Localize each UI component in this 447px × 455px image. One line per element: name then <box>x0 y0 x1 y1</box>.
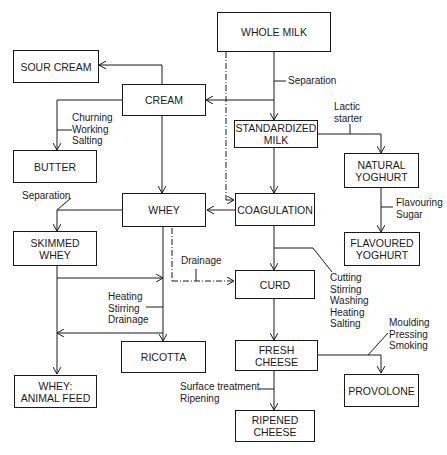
node-ricotta: RICOTTA <box>121 341 206 373</box>
label-lactic-starter: Lactic starter <box>334 101 362 124</box>
node-whole-milk: WHOLE MILK <box>217 12 331 52</box>
node-cream: CREAM <box>122 84 206 116</box>
node-fresh-cheese: FRESH CHEESE <box>235 340 318 371</box>
node-whey-animal-feed: WHEY: ANIMAL FEED <box>14 375 97 408</box>
label-churning: Churning Working Salting <box>72 112 113 147</box>
node-curd: CURD <box>235 270 315 299</box>
node-standardized-milk: STANDARDIZED MILK <box>234 120 318 148</box>
node-ripened-cheese: RIPENED CHEESE <box>235 410 315 442</box>
node-natural-yoghurt: NATURAL YOGHURT <box>344 153 419 188</box>
label-surface: Surface treatment Ripening <box>180 381 259 404</box>
node-skimmed-whey: SKIMMED WHEY <box>13 231 97 266</box>
label-moulding: Moulding Pressing Smoking <box>389 317 430 352</box>
label-heating: Heating Stirring Drainage <box>108 291 149 326</box>
label-flavouring: Flavouring Sugar <box>396 197 443 220</box>
node-flavoured-yoghurt: FLAVOURED YOGHURT <box>344 232 420 266</box>
node-whey: WHEY <box>122 193 206 227</box>
label-drainage: Drainage <box>181 255 222 267</box>
node-provolone: PROVOLONE <box>344 374 419 407</box>
label-separation-milk: Separation <box>288 75 336 87</box>
node-coagulation: COAGULATION <box>235 193 315 226</box>
label-separation-whey: Separation <box>22 190 70 202</box>
label-cutting: Cutting Stirring Washing Heating Salting <box>330 272 369 330</box>
node-sour-cream: SOUR CREAM <box>13 50 99 83</box>
node-butter: BUTTER <box>13 150 97 183</box>
